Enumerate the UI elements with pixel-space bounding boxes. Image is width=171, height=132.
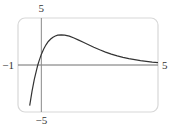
x-max-label: 5: [162, 59, 168, 71]
function-graph: 5 −5 −1 5: [0, 0, 171, 132]
y-max-label: 5: [39, 2, 45, 14]
function-curve: [30, 35, 158, 106]
y-min-label: −5: [35, 114, 47, 126]
x-min-label: −1: [2, 59, 14, 71]
